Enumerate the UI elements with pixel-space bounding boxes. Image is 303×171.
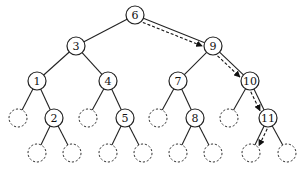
search-path-arrow [259,129,267,146]
tree-edge [22,89,33,110]
tree-nodes: 6391471025811 [9,6,296,162]
tree-edge [44,52,70,75]
tree-edge [233,89,245,110]
tree-node: 6 [126,6,144,24]
nil-leaf [28,144,46,162]
nil-leaf [134,144,152,162]
node-label: 3 [73,40,80,53]
tree-node: 4 [99,72,117,90]
tree-edge [182,89,191,110]
tree-edge [162,89,173,110]
tree-node: 8 [186,109,204,127]
tree-node: 11 [259,109,277,127]
tree-edge [84,19,127,42]
tree-node: 10 [241,72,259,90]
search-path-arrow [218,56,240,77]
tree-edge [58,126,68,145]
nil-leaf [278,144,296,162]
nil-leaf [9,109,27,127]
tree-node: 1 [28,72,46,90]
tree-edge [199,126,209,145]
nil-leaf [79,109,97,127]
nil-leaf [169,144,187,162]
node-label: 11 [261,112,275,125]
tree-edge [184,52,206,74]
nil-leaf [99,144,117,162]
nil-leaf [220,109,238,127]
tree-edge [182,126,191,145]
bst-diagram: 6391471025811 [0,0,303,171]
node-label: 4 [105,75,112,88]
tree-edge [143,18,204,42]
tree-node: 3 [67,37,85,55]
nil-leaf [242,144,260,162]
tree-edge [41,89,50,110]
nil-leaf [149,109,167,127]
tree-edge [92,89,103,110]
tree-edge [112,126,121,145]
node-label: 2 [51,112,58,125]
node-label: 6 [132,9,139,22]
node-label: 10 [243,75,257,88]
node-label: 8 [192,112,199,125]
tree-node: 9 [204,37,222,55]
nil-leaf [63,144,81,162]
tree-edge [272,126,282,145]
tree-node: 5 [116,109,134,127]
tree-edge [82,53,102,75]
tree-edge [254,89,264,110]
search-path-arrow [143,22,202,46]
node-label: 7 [175,75,182,88]
tree-canvas: 6391471025811 [0,0,303,171]
search-path-arrow [251,92,260,111]
nil-leaf [204,144,222,162]
tree-edge [255,126,264,145]
node-label: 1 [34,75,41,88]
node-label: 9 [210,40,217,53]
node-label: 5 [122,112,129,125]
tree-edge [112,89,121,110]
tree-edge [220,52,244,75]
tree-edge [129,126,139,145]
tree-node: 2 [45,109,63,127]
tree-node: 7 [169,72,187,90]
tree-edge [41,126,50,145]
